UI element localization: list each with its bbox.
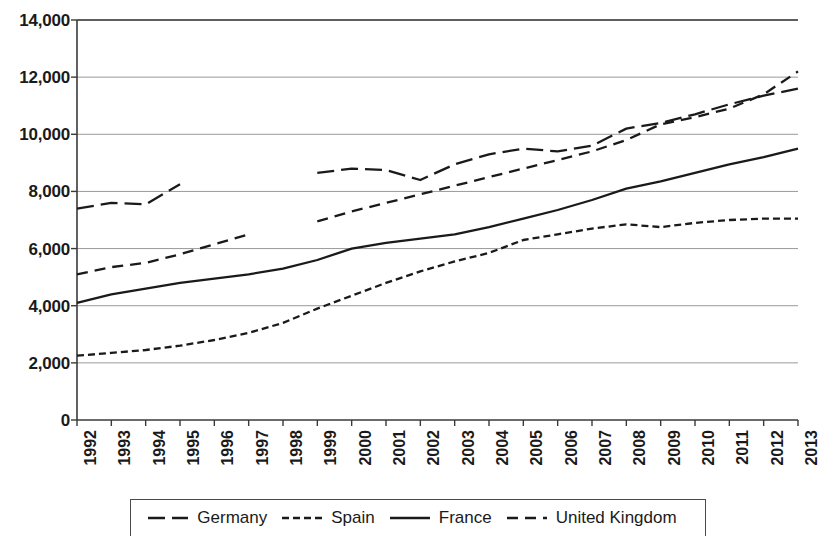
x-axis-tick-label: 1996 (220, 430, 236, 466)
x-axis-tick-label: 2006 (564, 430, 580, 466)
legend-label: United Kingdom (549, 508, 690, 528)
x-axis-tick-label: 1993 (117, 430, 133, 466)
x-axis-tick-label: 2003 (461, 430, 477, 466)
x-axis-tick-label: 2002 (426, 430, 442, 466)
legend-label: Spain (324, 508, 387, 528)
x-axis-tick-label: 2001 (392, 430, 408, 466)
x-axis-tick-label: 2013 (804, 430, 820, 466)
x-axis-tick-label: 2010 (701, 430, 717, 466)
x-axis-tick-label: 2007 (598, 430, 614, 466)
legend-item-germany[interactable]: Germany (146, 508, 280, 528)
x-axis-tick-label: 1995 (186, 430, 202, 466)
x-axis-tick-label: 1999 (323, 430, 339, 466)
legend-item-united-kingdom[interactable]: United Kingdom (505, 508, 690, 528)
medium-dash-swatch (505, 511, 549, 525)
x-axis-tick-label: 2012 (770, 430, 786, 466)
x-axis-tick-label: 1998 (289, 430, 305, 466)
x-axis-tick-label: 1994 (152, 430, 168, 466)
long-dash-swatch (146, 511, 190, 525)
x-axis-tick-label: 1997 (255, 430, 271, 466)
legend-item-spain[interactable]: Spain (280, 508, 387, 528)
x-axis-tick-label: 1992 (83, 430, 99, 466)
legend-label: Germany (190, 508, 280, 528)
short-dash-swatch (280, 511, 324, 525)
chart-legend: GermanySpainFranceUnited Kingdom (130, 499, 706, 536)
legend-label: France (432, 508, 505, 528)
legend-item-france[interactable]: France (388, 508, 505, 528)
solid-line-swatch (388, 511, 432, 525)
x-axis-tick-label: 2011 (735, 430, 751, 465)
x-axis-tick-label: 2004 (495, 430, 511, 466)
x-axis-tick-label: 2009 (667, 430, 683, 466)
x-axis-tick-label: 2000 (358, 430, 374, 466)
x-axis-tick-label: 2008 (632, 430, 648, 466)
x-axis-tick-label: 2005 (529, 430, 545, 466)
